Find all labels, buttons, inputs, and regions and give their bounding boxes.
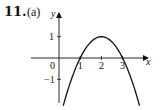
parabola-curve xyxy=(63,37,139,106)
y-axis-label: y xyxy=(50,8,56,19)
y-tick-label: 1 xyxy=(49,31,54,42)
x-axis-label: x xyxy=(145,56,151,67)
y-tick-label: −1 xyxy=(44,74,55,85)
parabola-plot: 1231−10 x y xyxy=(0,0,163,110)
origin-label: 0 xyxy=(50,60,55,71)
x-tick-label: 2 xyxy=(99,60,104,71)
